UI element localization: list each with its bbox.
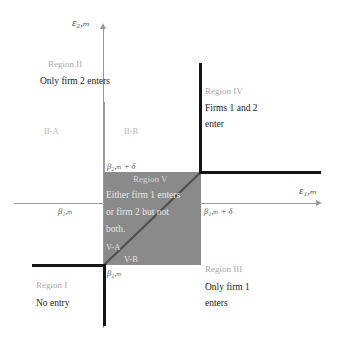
tick-label-beta1m-plus-delta: β₁,ₘ + δ <box>204 206 232 217</box>
tick-label-beta2m-plus-delta: β₂,ₘ + δ <box>107 161 135 172</box>
tick-label-beta1m: β₁,ₘ <box>58 206 73 217</box>
region-v-description-line-3: both. <box>106 224 125 236</box>
boundary-horizontal-upper-right <box>199 171 321 174</box>
region-ii-a-tag: II-A <box>44 126 59 137</box>
region-v-a-tag: V-A <box>106 242 120 253</box>
region-v-description-line-2: or firm 2 but not <box>106 207 169 219</box>
region-ii-b-tag: II-B <box>124 126 138 137</box>
region-iv-description-line-1: Firms 1 and 2 <box>205 103 258 115</box>
y-axis-label: ε₂,ₘ <box>72 16 90 30</box>
x-axis-label: ε₁,ₘ <box>299 184 317 198</box>
region-iii-description-line-2: enters <box>205 298 228 310</box>
guide-line-beta1m <box>104 102 105 172</box>
region-i-description: No entry <box>36 298 70 310</box>
region-i-tag: Region I <box>36 280 67 291</box>
region-ii-description: Only firm 2 enters <box>40 76 110 88</box>
region-v-b-tag: V-B <box>124 254 138 265</box>
boundary-vertical-upper-right <box>199 63 202 173</box>
region-ii-tag: Region II <box>48 59 82 70</box>
region-iii-tag: Region III <box>205 264 242 275</box>
region-v-tag: Region V <box>133 174 168 185</box>
region-iv-description-line-2: enter <box>205 119 224 131</box>
boundary-vertical-lower-left <box>103 264 106 326</box>
tick-label-beta2m: β₂,ₘ <box>107 268 122 279</box>
boundary-horizontal-lower-left <box>32 264 106 267</box>
y-axis-arrow-icon <box>100 23 106 29</box>
region-iii-description-line-1: Only firm 1 <box>205 282 250 294</box>
region-v-description-line-1: Either firm 1 enters <box>106 190 180 202</box>
region-iv-tag: Region IV <box>205 86 243 97</box>
figure-canvas: ε₂,ₘ ε₁,ₘ Region II Only firm 2 enters I… <box>0 0 342 347</box>
x-axis-arrow-icon <box>316 200 322 206</box>
